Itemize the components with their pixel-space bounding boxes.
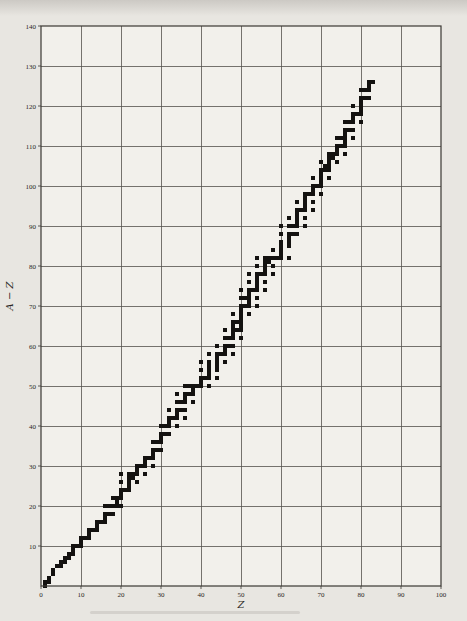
- nuclide-point: [351, 136, 354, 139]
- nuclide-point: [231, 312, 234, 315]
- nuclide-point: [239, 328, 244, 333]
- nuclide-point: [359, 88, 364, 93]
- nuclide-point: [195, 384, 200, 389]
- nuclide-point: [199, 384, 204, 389]
- nuclide-point: [227, 344, 232, 349]
- nuclide-point: [227, 336, 232, 341]
- nuclide-point: [231, 352, 234, 355]
- nuclide-point: [223, 348, 228, 353]
- nuclide-point: [291, 224, 296, 229]
- nuclide-point: [99, 520, 104, 525]
- nuclide-point: [183, 416, 186, 419]
- nuclide-point: [127, 472, 132, 477]
- nuclide-point: [359, 108, 364, 113]
- nuclide-point: [191, 392, 196, 397]
- nuclide-point: [115, 504, 120, 509]
- nuclide-point: [371, 80, 376, 85]
- nuclide-point: [303, 216, 306, 219]
- nuclide-point: [343, 132, 348, 137]
- nuclide-point: [299, 208, 304, 213]
- nuclide-point: [215, 352, 220, 357]
- nuclide-point: [251, 288, 256, 293]
- nuclide-point: [343, 152, 346, 155]
- nuclide-point: [207, 384, 210, 387]
- nuclide-point: [119, 480, 122, 483]
- nuclide-point: [287, 216, 290, 219]
- x-tick-label: 10: [78, 591, 86, 599]
- nuclide-point: [43, 580, 48, 585]
- nuclide-point: [207, 364, 212, 369]
- y-tick-label: 110: [26, 143, 37, 151]
- nuclide-point: [247, 288, 252, 293]
- nuclide-point: [287, 236, 292, 241]
- nuclide-point: [255, 280, 260, 285]
- nuclide-point: [67, 556, 72, 561]
- nuclide-point: [107, 504, 112, 509]
- nuclide-point: [215, 344, 218, 347]
- nuclide-point: [327, 156, 332, 161]
- y-tick-label: 120: [26, 103, 37, 111]
- nuclide-point: [247, 300, 252, 305]
- nuclide-point: [207, 352, 210, 355]
- nuclide-point: [187, 392, 192, 397]
- nuclide-point: [231, 336, 236, 341]
- nuclide-point: [319, 184, 324, 189]
- nuclide-point: [103, 504, 108, 509]
- nuclide-point: [175, 412, 180, 417]
- nuclide-point: [255, 264, 258, 267]
- nuclide-point: [111, 512, 116, 517]
- nuclide-point: [335, 136, 340, 141]
- nuclide-point: [287, 256, 290, 259]
- nuclide-point: [367, 80, 372, 85]
- nuclide-point: [263, 260, 268, 265]
- nuclide-point: [335, 144, 340, 149]
- nuclide-point: [143, 460, 148, 465]
- nuclide-point: [143, 472, 146, 475]
- nuclide-point: [279, 244, 284, 249]
- x-tick-label: 50: [238, 591, 246, 599]
- nuclide-point: [163, 424, 168, 429]
- nuclide-point: [347, 120, 352, 125]
- nuclide-point: [223, 352, 228, 357]
- y-tick-label: 10: [29, 543, 37, 551]
- nuclide-point: [307, 192, 312, 197]
- y-tick-label: 100: [26, 183, 37, 191]
- nuclide-point: [215, 356, 220, 361]
- nuclide-point: [63, 560, 68, 565]
- nuclide-point: [343, 136, 348, 141]
- nuclide-point: [119, 488, 124, 493]
- nuclide-point: [127, 484, 132, 489]
- nuclide-point: [71, 548, 76, 553]
- nuclide-point: [287, 240, 292, 245]
- nuclide-point: [199, 360, 202, 363]
- nuclide-point: [123, 488, 128, 493]
- nuclide-point: [295, 220, 300, 225]
- nuclide-point: [327, 176, 330, 179]
- y-tick-label: 40: [29, 423, 37, 431]
- nuclide-point: [255, 284, 260, 289]
- nuclide-point: [143, 464, 148, 469]
- nuclide-point: [59, 564, 64, 569]
- nuclide-point: [103, 520, 108, 525]
- nuclide-point: [215, 360, 220, 365]
- nuclide-point: [263, 268, 268, 273]
- nuclide-point: [179, 408, 184, 413]
- nuclide-point: [87, 532, 92, 537]
- nuclide-point: [175, 416, 180, 421]
- nuclide-point: [191, 388, 196, 393]
- nuclide-point: [279, 248, 284, 253]
- nuclide-point: [55, 564, 60, 569]
- nuclide-point: [163, 432, 168, 437]
- nuclide-point: [351, 104, 354, 107]
- nuclide-point: [135, 480, 138, 483]
- y-tick-label: 30: [29, 463, 37, 471]
- nuclide-point: [151, 448, 156, 453]
- nuclide-point: [351, 120, 356, 125]
- nuclide-point: [187, 384, 192, 389]
- x-tick-label: 70: [318, 591, 326, 599]
- nuclide-point: [95, 528, 100, 533]
- nuclide-point: [279, 252, 284, 257]
- nuclide-point: [339, 136, 344, 141]
- nuclide-point: [199, 368, 202, 371]
- nuclide-point: [231, 324, 236, 329]
